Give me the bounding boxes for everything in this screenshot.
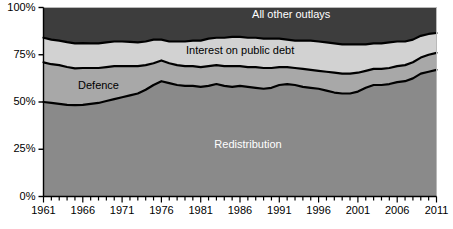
y-tick-label: 0%: [20, 191, 36, 202]
y-tick-label: 50%: [13, 96, 35, 107]
y-tick-label: 100%: [7, 2, 35, 13]
y-tick-label: 75%: [13, 49, 35, 60]
x-tick-label: 2011: [397, 205, 453, 216]
y-tick-label: 25%: [13, 143, 35, 154]
